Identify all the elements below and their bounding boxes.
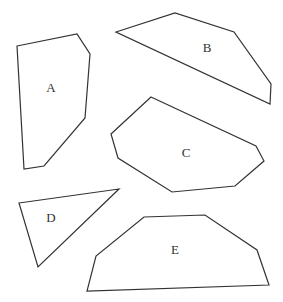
shape-a-outline (17, 34, 90, 169)
shape-b-outline (116, 13, 271, 104)
shape-c-label: C (182, 145, 191, 160)
shape-a: A (17, 34, 90, 169)
diagram-svg: A B C D E (0, 0, 283, 302)
shape-d: D (19, 189, 119, 267)
shape-d-outline (19, 189, 119, 267)
shape-e-label: E (171, 242, 179, 257)
shape-c: C (111, 97, 264, 192)
shapes-diagram: A B C D E (0, 0, 283, 302)
shape-e: E (87, 215, 269, 291)
shape-d-label: D (46, 210, 55, 225)
shape-b-label: B (203, 40, 212, 55)
shape-b: B (116, 13, 271, 104)
shape-a-label: A (46, 80, 56, 95)
